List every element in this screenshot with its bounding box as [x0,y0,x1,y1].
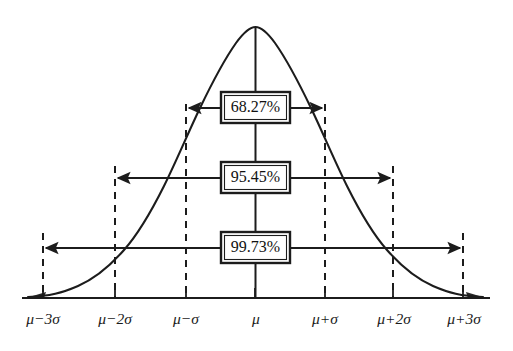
tick-label-minus-1-sigma: μ−σ [172,310,200,327]
tick-label-mu: μ [251,310,260,327]
tick-label-plus-1-sigma: μ+σ [311,310,339,327]
tick-label-minus-3-sigma: μ−3σ [25,310,61,327]
band-2-sigma-label: 95.45% [231,168,280,185]
x-tick-marks [43,288,463,298]
axis-right-tip [466,292,486,298]
band-1-sigma-label: 68.27% [231,98,280,115]
figure-canvas: 68.27% 95.45% 99.73% μ−3σ μ−2σ μ−σ μ μ+σ… [0,0,513,351]
band-1-sigma: 68.27% [189,92,322,123]
tick-label-plus-2-sigma: μ+2σ [376,310,412,327]
tick-label-minus-2-sigma: μ−2σ [97,310,133,327]
band-3-sigma-label: 99.73% [231,238,280,255]
normal-distribution-figure: 68.27% 95.45% 99.73% μ−3σ μ−2σ μ−σ μ μ+σ… [0,0,513,351]
band-3-sigma: 99.73% [46,232,460,263]
tick-label-plus-3-sigma: μ+3σ [446,310,482,327]
x-axis-tick-labels: μ−3σ μ−2σ μ−σ μ μ+σ μ+2σ μ+3σ [25,310,482,327]
